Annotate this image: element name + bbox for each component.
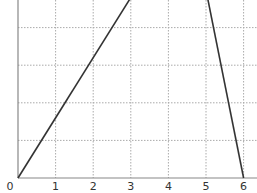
grid-lines: [18, 0, 257, 178]
x-tick-label: 6: [240, 180, 247, 193]
x-tick-label: 5: [203, 180, 210, 193]
line-chart: 0123456: [0, 0, 257, 193]
x-tick-label: 4: [165, 180, 172, 193]
x-tick-label: 2: [90, 180, 97, 193]
x-tick-label: 1: [52, 180, 59, 193]
x-tick-labels: 0123456: [7, 180, 248, 193]
x-tick-label: 0: [7, 180, 14, 193]
series-line: [18, 0, 131, 178]
x-tick-label: 3: [127, 180, 134, 193]
axes: [18, 0, 257, 178]
series-line: [208, 0, 244, 178]
